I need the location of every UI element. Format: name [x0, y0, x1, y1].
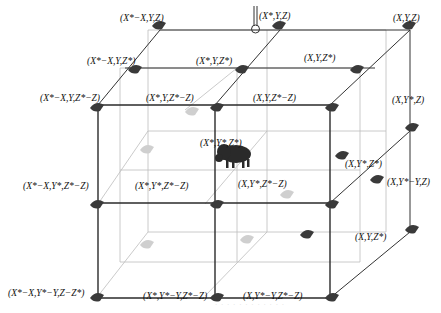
node-label: (X*−X,Y,Z*−Z) [40, 94, 100, 104]
center-node-label: (X*,Y*,Z*) [200, 139, 242, 149]
node-label: (X*,Y,Z*) [196, 57, 232, 67]
lattice-lines [0, 0, 441, 313]
faint-caption: · · · · · · · · · · · · [150, 301, 350, 309]
node-label: (X*−X,Y*−Y,Z−Z*) [8, 289, 84, 299]
node-label: (X,Y*,Z*−Z) [238, 180, 287, 190]
node-label: (X,Y,Z*) [355, 233, 386, 243]
node-label: (X*,Y,Z*−Z) [146, 94, 194, 104]
node-label: (X*,Y,Z) [259, 12, 290, 22]
animal-nodes-light [140, 107, 294, 248]
node-label: (X*−X,Y,Z*) [87, 57, 135, 67]
node-label: (X,Y,Z*) [304, 54, 335, 64]
node-label: (X,Y,Z) [393, 14, 420, 24]
lattice-diagram: (X*−X,Y,Z) (X*,Y,Z) (X,Y,Z) (X*−X,Y,Z*) … [0, 0, 441, 313]
node-label: (X,Y,Z*−Z) [253, 94, 296, 104]
node-label: (X*,Y*,Z*−Z) [135, 182, 188, 192]
node-label: (X,Y*,Z) [392, 96, 424, 106]
node-label: (X*−X,Y,Z) [120, 14, 164, 24]
node-label: (X,Y*,Z*) [345, 160, 382, 170]
node-label: (X,Y*−Y,Z) [387, 178, 430, 188]
node-label: (X*−X,Y*,Z*−Z) [23, 182, 89, 192]
